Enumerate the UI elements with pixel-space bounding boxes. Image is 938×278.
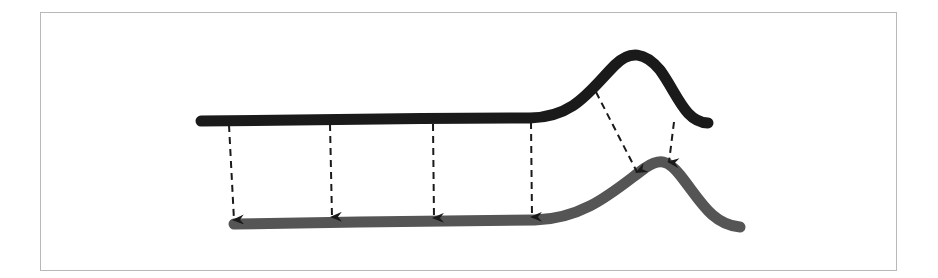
mapping-arrow-5 xyxy=(596,92,637,172)
mapping-arrow-4 xyxy=(531,122,532,217)
mapping-arrow-3 xyxy=(433,124,434,218)
mapping-arrow-2 xyxy=(330,124,332,217)
mapping-arrow-6 xyxy=(669,122,674,162)
warping-diagram xyxy=(0,0,938,278)
source-curve xyxy=(201,55,708,123)
target-curve xyxy=(234,162,740,227)
mapping-arrow-1 xyxy=(229,125,234,220)
